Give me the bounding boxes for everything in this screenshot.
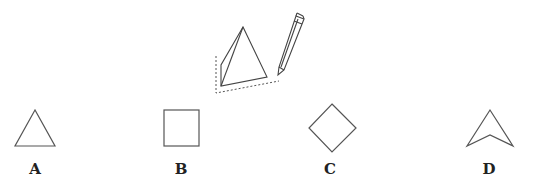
option-c-label: C — [315, 160, 345, 178]
option-d-arrowhead[interactable] — [467, 110, 513, 146]
option-b-square[interactable] — [164, 110, 199, 146]
pencil-icon — [278, 13, 304, 75]
option-b-label: B — [166, 160, 196, 178]
figure-canvas — [0, 0, 535, 194]
option-d-label: D — [474, 160, 504, 178]
pyramid-icon — [221, 27, 267, 86]
option-a-label: A — [20, 160, 50, 178]
option-a-triangle[interactable] — [15, 110, 55, 146]
option-c-diamond[interactable] — [309, 104, 356, 152]
